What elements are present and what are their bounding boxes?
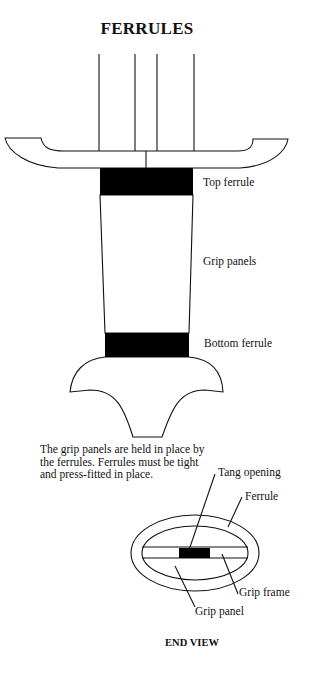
label-tang-opening: Tang opening bbox=[218, 466, 281, 478]
label-bottom-ferrule: Bottom ferrule bbox=[204, 337, 272, 349]
label-grip-frame: Grip frame bbox=[239, 586, 290, 598]
explanation-note: The grip panels are held in place by the… bbox=[40, 443, 210, 481]
top-ferrule bbox=[100, 168, 193, 195]
tang-opening bbox=[179, 548, 210, 558]
end-view-caption: END VIEW bbox=[0, 637, 312, 648]
label-grip-panel: Grip panel bbox=[195, 605, 244, 617]
grip-panels bbox=[100, 195, 193, 333]
tang-lines bbox=[99, 54, 194, 151]
label-grip-panels: Grip panels bbox=[203, 255, 256, 267]
bottom-ferrule bbox=[105, 333, 189, 357]
pommel bbox=[70, 357, 223, 437]
label-top-ferrule: Top ferrule bbox=[203, 176, 254, 188]
label-ferrule: Ferrule bbox=[245, 490, 278, 502]
